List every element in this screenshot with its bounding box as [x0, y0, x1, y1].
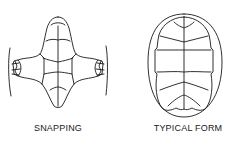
typical-plastron-drawing: [130, 0, 239, 122]
typical-plastron-figure: [130, 0, 239, 122]
typical-form-label: TYPICAL FORM: [143, 123, 233, 133]
snapping-plastron-figure: [0, 0, 120, 120]
snapping-label: SNAPPING: [18, 123, 98, 133]
snapping-plastron-drawing: [0, 0, 120, 120]
